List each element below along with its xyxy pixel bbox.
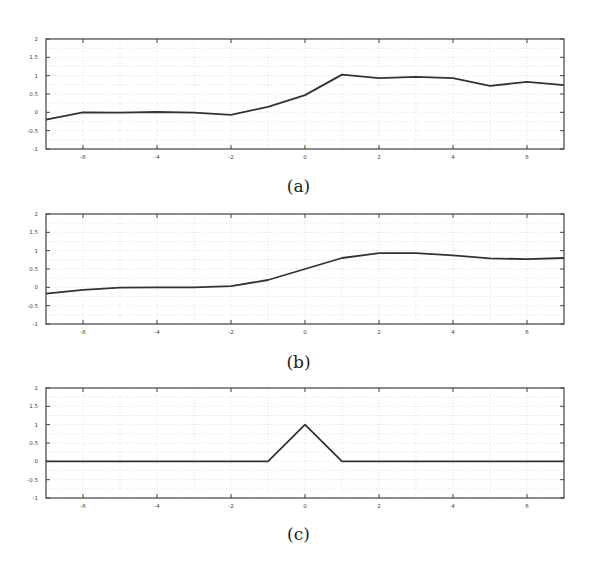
x-tick-label: -2 [228,329,233,335]
x-tick-label: 6 [525,503,529,509]
y-tick-label: -0.5 [27,477,38,483]
y-tick-label: -1 [33,321,38,327]
x-tick-label: 6 [525,154,529,160]
y-tick-label: 0.5 [29,266,38,272]
x-tick-label: -2 [228,154,233,160]
x-tick-label: -4 [154,154,160,160]
y-tick-label: 0 [35,284,39,290]
y-tick-label: 0.5 [29,440,38,446]
x-tick-label: 4 [451,154,455,160]
x-tick-label: -4 [154,503,160,509]
x-tick-label: 0 [303,329,307,335]
y-tick-label: 1.5 [29,229,38,235]
y-tick-label: 2 [35,36,39,42]
line-chart-a: -6-4-20246-1-0.500.511.52 [0,31,597,165]
y-tick-label: 1 [35,422,39,428]
y-tick-label: 2 [35,385,39,391]
x-tick-label: 4 [451,503,455,509]
line-chart-c: -6-4-20246-1-0.500.511.52 [0,380,597,514]
x-tick-label: 2 [377,329,381,335]
y-tick-label: -1 [33,495,38,501]
x-tick-label: -2 [228,503,233,509]
x-tick-label: 6 [525,329,529,335]
y-tick-label: 1.5 [29,403,38,409]
y-tick-label: 0 [35,109,39,115]
x-tick-label: 4 [451,329,455,335]
y-tick-label: 1.5 [29,54,38,60]
y-tick-label: 0.5 [29,91,38,97]
y-tick-label: -1 [33,146,38,152]
x-tick-label: -6 [80,503,86,509]
x-tick-label: 2 [377,503,381,509]
figure-caption-b: (b) [0,352,597,372]
y-tick-label: 1 [35,73,39,79]
figure-caption-a: (a) [0,176,597,196]
x-tick-label: 2 [377,154,381,160]
line-chart-b: -6-4-20246-1-0.500.511.52 [0,206,597,340]
y-tick-label: -0.5 [27,128,38,134]
figure-caption-c: (c) [0,524,597,544]
x-tick-label: -6 [80,154,86,160]
x-tick-label: 0 [303,154,307,160]
y-tick-label: 1 [35,248,39,254]
x-tick-label: 0 [303,503,307,509]
x-tick-label: -6 [80,329,86,335]
y-tick-label: 2 [35,211,39,217]
x-tick-label: -4 [154,329,160,335]
y-tick-label: -0.5 [27,303,38,309]
y-tick-label: 0 [35,458,39,464]
